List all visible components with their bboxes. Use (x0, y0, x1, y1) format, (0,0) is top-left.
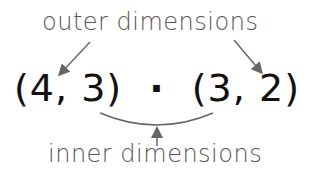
outer-right-arrow-icon (234, 40, 261, 72)
outer-left-arrow-icon (60, 42, 90, 74)
inner-brace-arc-icon (100, 113, 213, 125)
inner-dimensions-label: inner dimensions (48, 140, 262, 168)
